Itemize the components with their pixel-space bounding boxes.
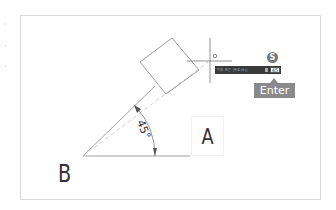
rubber-band-line	[83, 62, 208, 156]
crosshair-cursor	[187, 38, 232, 83]
enter-key-label: Enter	[254, 83, 295, 98]
rotated-rectangle[interactable]	[140, 38, 199, 94]
drawing-canvas[interactable]	[0, 0, 336, 210]
point-label-a: A	[191, 116, 224, 156]
point-label-b: B	[58, 160, 71, 188]
arc-arrow-bottom-icon	[153, 148, 157, 156]
left-margin-marks	[5, 24, 6, 66]
angle-input-field[interactable]: 45	[270, 67, 280, 73]
dropdown-arrow-icon	[265, 68, 268, 72]
step-badge: S	[267, 52, 278, 63]
tooltip-prompt: 지정 또는 [특성(R)]	[215, 68, 265, 72]
dynamic-input-tooltip: 지정 또는 [특성(R)] 45	[215, 66, 281, 74]
